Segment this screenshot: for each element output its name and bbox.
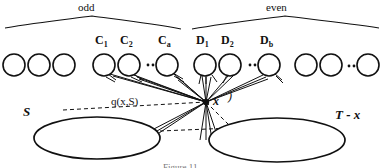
node-circle-n2 — [28, 54, 50, 76]
node-label-ca-sub: a — [167, 40, 171, 49]
node-label-d1-base: D — [196, 33, 205, 47]
node-label-c2: C2 — [120, 34, 133, 49]
edge-s-x-3 — [153, 102, 206, 137]
node-circle-ca — [156, 54, 178, 76]
set-label-s: S — [23, 105, 30, 118]
edge-t-x-1 — [200, 102, 206, 140]
set-ellipse-S — [34, 117, 160, 159]
focal-point-dot — [203, 99, 209, 105]
node-label-db: Db — [260, 34, 273, 49]
ellipsis-dot-e-even-inner — [254, 64, 257, 67]
ellipsis-dot-e-odd-inner — [147, 64, 150, 67]
node-circle-n12 — [357, 54, 379, 76]
node-circle-c1 — [93, 54, 115, 76]
node-circle-n1 — [3, 54, 25, 76]
node-label-c1-sub: 1 — [104, 40, 108, 49]
set-ellipse-T-x — [209, 118, 345, 162]
node-label-ca-base: C — [158, 33, 167, 47]
group-set-ellipses — [34, 117, 345, 162]
ellipsis-dot-e-even-outer — [353, 65, 356, 68]
node-label-d1: D1 — [196, 34, 209, 49]
focal-paren-glyph: ) — [228, 90, 232, 102]
node-label-d2-base: D — [221, 33, 230, 47]
node-circle-db — [258, 54, 280, 76]
node-label-c2-base: C — [120, 33, 129, 47]
node-label-db-sub: b — [269, 40, 273, 49]
node-label-d2-sub: 2 — [230, 40, 234, 49]
group-label-even: even — [266, 2, 287, 13]
brace-even — [192, 16, 379, 29]
node-circle-c2 — [118, 54, 140, 76]
set-label-t-x: T - x — [335, 108, 360, 121]
node-label-d1-sub: 1 — [205, 40, 209, 49]
edge-c2c-x — [139, 79, 206, 102]
node-circle-n10 — [295, 54, 317, 76]
edge-s-x-1 — [150, 102, 206, 131]
node-label-db-base: D — [260, 33, 269, 47]
node-label-c2-sub: 2 — [129, 40, 133, 49]
ellipsis-dot-e-even-outer — [348, 65, 351, 68]
focal-point-label: x — [213, 95, 219, 107]
figure-canvas: odd even C1 C2 Ca D1 D2 Db S T - x x ) q… — [0, 0, 384, 168]
node-circle-n3 — [53, 54, 75, 76]
node-label-ca: Ca — [158, 34, 171, 49]
edge-cac-x — [178, 80, 206, 102]
group-label-odd: odd — [78, 2, 95, 13]
group-braces — [5, 16, 379, 29]
figure-vector-layer — [0, 0, 384, 168]
node-circle-n11 — [320, 54, 342, 76]
tail-d1c — [212, 75, 217, 82]
node-label-c1-base: C — [95, 33, 104, 47]
node-label-d2: D2 — [221, 34, 234, 49]
ellipsis-dot-e-even-inner — [249, 64, 252, 67]
node-label-c1: C1 — [95, 34, 108, 49]
node-circle-d2 — [219, 54, 241, 76]
edge-d1-x — [202, 76, 206, 102]
figure-caption: Figure 11 — [163, 163, 197, 168]
brace-odd — [5, 16, 181, 29]
annotation-q-label: q(x,S) — [111, 96, 138, 107]
ellipsis-dot-e-odd-inner — [152, 64, 155, 67]
node-circle-d1 — [194, 54, 216, 76]
tail-d1 — [199, 75, 201, 84]
